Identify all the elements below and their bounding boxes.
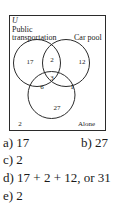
venn-diagram: U Public transportation Car pool 17 2 12…	[0, 0, 128, 135]
answer-e: e) 2	[3, 187, 23, 204]
region-public-alone: 6	[40, 83, 44, 91]
set-label-alone: Alone	[78, 120, 95, 128]
answer-c: c) 2	[3, 151, 23, 168]
universe-label: U	[12, 16, 19, 25]
region-carpool-alone: 1	[70, 83, 74, 91]
region-outside: 2	[18, 120, 22, 128]
region-public-only: 17	[27, 58, 35, 66]
region-all-three: 3	[50, 74, 54, 82]
answer-d: d) 17 + 2 + 12, or 31	[3, 169, 111, 186]
set-label-public-line2: transportation	[12, 33, 56, 42]
region-alone-only: 27	[54, 104, 62, 112]
answer-a: a) 17	[3, 134, 29, 151]
answer-b: b) 27	[81, 134, 108, 151]
region-carpool-only: 12	[79, 58, 87, 66]
set-label-carpool: Car pool	[74, 33, 103, 42]
region-public-carpool: 2	[50, 56, 54, 64]
